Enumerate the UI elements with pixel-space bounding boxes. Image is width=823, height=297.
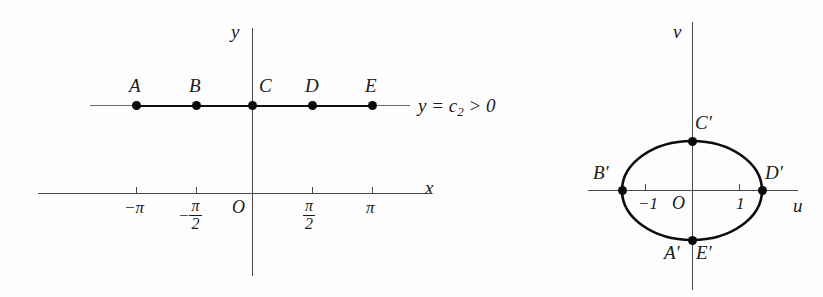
point-label-b-prime: B′ [593,163,609,182]
point-label-e-prime: E′ [696,243,712,262]
point-b-prime [618,186,627,195]
figure-canvas: x y O −π − π 2 π 2 π [0,0,823,297]
point-label-d-prime: D′ [765,163,783,182]
point-label-c-prime: C′ [695,113,712,132]
point-label-a-prime: A′ [664,243,680,262]
point-c-prime [688,137,697,146]
point-d-prime [758,186,767,195]
